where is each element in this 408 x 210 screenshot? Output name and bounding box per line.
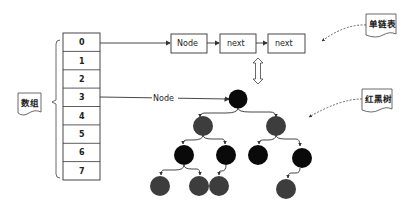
list-label-callout: 单链表: [322, 14, 396, 41]
list-node: Node: [177, 39, 198, 48]
tree-entry-label: Node: [153, 94, 174, 103]
array-label-callout: 数组: [18, 93, 41, 115]
red-black-tree: [150, 90, 312, 200]
tree-node-black: [248, 145, 268, 165]
hashmap-diagram: 数组 0 1 2 3 4 5 6 7 Node next next 单链表: [0, 0, 408, 210]
array-cell: 4: [79, 112, 85, 121]
tree-node-red: [150, 176, 170, 196]
array-cell: 6: [79, 148, 85, 157]
convert-double-arrow-icon: [253, 58, 263, 84]
array-table: 0 1 2 3 4 5 6 7: [63, 33, 100, 180]
tree-node-red: [193, 116, 213, 136]
array-cell: 3: [79, 93, 85, 102]
linked-list: Node next next: [171, 34, 305, 53]
tree-node-red: [189, 176, 209, 196]
list-node: next: [227, 39, 245, 48]
tree-node-black: [292, 148, 312, 168]
tree-node-black: [229, 90, 248, 109]
tree-label: 红黑树: [365, 94, 392, 104]
tree-label-callout: 红黑树: [309, 89, 392, 117]
array-cell: 5: [79, 130, 85, 139]
array-brace: [52, 40, 60, 178]
array-cell: 0: [79, 38, 85, 47]
array-cell: 1: [79, 57, 85, 66]
list-label: 单链表: [369, 19, 396, 29]
tree-node-red: [266, 116, 286, 136]
tree-node-red: [209, 176, 229, 196]
tree-node-black: [174, 145, 194, 165]
tree-node-black: [216, 145, 236, 165]
list-node: next: [275, 39, 293, 48]
array-cell: 7: [79, 167, 85, 176]
array-cell: 2: [79, 75, 85, 84]
tree-node-red: [276, 179, 296, 199]
array-label: 数组: [21, 98, 39, 108]
